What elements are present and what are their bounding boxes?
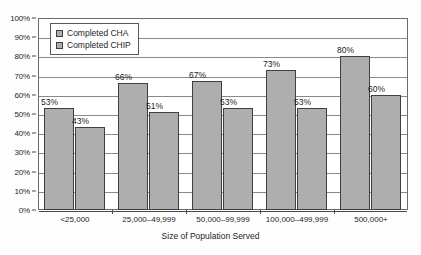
legend-swatch-icon xyxy=(56,30,63,37)
y-tick-label: 30% xyxy=(15,148,30,157)
y-tick-mark xyxy=(32,210,36,211)
legend-item: Completed CHA xyxy=(56,27,131,39)
y-tick-label: 100% xyxy=(10,14,30,23)
bar xyxy=(371,95,401,210)
bar xyxy=(44,108,74,210)
x-tick-mark xyxy=(112,210,113,214)
bar xyxy=(297,108,327,210)
y-tick-label: 0% xyxy=(19,206,30,215)
y-tick-mark xyxy=(32,37,36,38)
bar xyxy=(192,81,222,210)
bar xyxy=(340,56,370,210)
y-tick-label: 40% xyxy=(15,129,30,138)
x-tick-mark xyxy=(334,210,335,214)
bar-value-label: 53% xyxy=(220,97,237,107)
x-tick-mark xyxy=(186,210,187,214)
bar-chart: 0%10%20%30%40%50%60%70%80%90%100% 53%43%… xyxy=(0,0,421,255)
legend-item: Completed CHIP xyxy=(56,39,131,51)
legend-item-label: Completed CHA xyxy=(67,28,128,38)
bar-value-label: 60% xyxy=(368,84,385,94)
y-tick-mark xyxy=(32,171,36,172)
y-tick-label: 10% xyxy=(15,186,30,195)
bar-value-label: 43% xyxy=(72,116,89,126)
y-tick-label: 80% xyxy=(15,52,30,61)
x-category-label: <25,000 xyxy=(60,215,89,224)
y-tick-mark xyxy=(32,18,36,19)
bar-value-label: 73% xyxy=(263,59,280,69)
x-category-label: 25,000–49,999 xyxy=(122,215,175,224)
x-tick-mark xyxy=(260,210,261,214)
bar xyxy=(118,83,148,210)
bar xyxy=(266,70,296,210)
y-tick-mark xyxy=(32,56,36,57)
legend-swatch-icon xyxy=(56,42,63,49)
y-tick-mark xyxy=(32,133,36,134)
y-tick-mark xyxy=(32,94,36,95)
x-category-label: 100,000–499,999 xyxy=(266,215,328,224)
x-category-label: 500,000+ xyxy=(354,215,388,224)
bar xyxy=(149,112,179,210)
bar xyxy=(75,127,105,210)
bar-group: 67%53% xyxy=(186,18,260,210)
legend-item-label: Completed CHIP xyxy=(67,40,131,50)
chart-legend: Completed CHA Completed CHIP xyxy=(50,23,139,55)
y-tick-label: 50% xyxy=(15,110,30,119)
y-tick-label: 90% xyxy=(15,33,30,42)
y-tick-label: 60% xyxy=(15,90,30,99)
bar xyxy=(223,108,253,210)
bar-value-label: 67% xyxy=(189,70,206,80)
y-tick-label: 20% xyxy=(15,167,30,176)
y-tick-label: 70% xyxy=(15,71,30,80)
bar-group: 80%60% xyxy=(334,18,408,210)
bar-value-label: 80% xyxy=(337,45,354,55)
y-tick-mark xyxy=(32,114,36,115)
x-axis: <25,00025,000–49,99950,000–99,999100,000… xyxy=(38,210,408,230)
bar-value-label: 53% xyxy=(41,97,58,107)
y-tick-mark xyxy=(32,190,36,191)
bar-value-label: 53% xyxy=(294,97,311,107)
bar-value-label: 66% xyxy=(115,72,132,82)
y-tick-mark xyxy=(32,75,36,76)
y-axis: 0%10%20%30%40%50%60%70%80%90%100% xyxy=(0,18,36,210)
x-category-label: 50,000–99,999 xyxy=(196,215,249,224)
x-axis-title: Size of Population Served xyxy=(0,231,421,241)
y-tick-mark xyxy=(32,152,36,153)
bar-group: 73%53% xyxy=(260,18,334,210)
bar-value-label: 51% xyxy=(146,101,163,111)
